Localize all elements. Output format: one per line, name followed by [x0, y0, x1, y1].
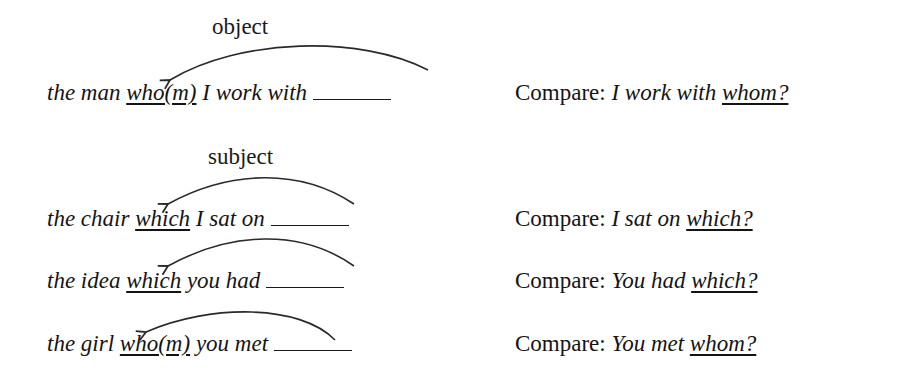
- gap-blank: [266, 286, 344, 288]
- compare-1: Compare: I work with whom?: [515, 80, 788, 106]
- sentence-after: you had: [181, 268, 260, 293]
- sentence-after: I work with: [197, 80, 308, 105]
- compare-wh-word: whom?: [722, 80, 788, 105]
- subject-label: subject: [208, 144, 273, 170]
- compare-prefix: Compare:: [515, 206, 611, 231]
- object-label: object: [212, 14, 268, 40]
- compare-wh-word: whom?: [690, 331, 756, 356]
- example-sentence-4: the girl who(m) you met: [47, 331, 352, 357]
- compare-wh-word: which?: [686, 206, 752, 231]
- compare-prefix: Compare:: [515, 268, 611, 293]
- gap-blank: [313, 98, 391, 100]
- object-arrow: [170, 46, 428, 80]
- sentence-before: the idea: [47, 268, 126, 293]
- sentence-before: the chair: [47, 206, 135, 231]
- relative-pronoun: who(m): [120, 331, 190, 356]
- compare-prefix: Compare:: [515, 80, 611, 105]
- gap-blank: [271, 224, 349, 226]
- gap-blank: [274, 349, 352, 351]
- sentence-after: I sat on: [190, 206, 265, 231]
- sentence-after: you met: [190, 331, 268, 356]
- compare-phrase: You had: [611, 268, 691, 293]
- compare-3: Compare: You had which?: [515, 268, 758, 294]
- compare-wh-word: which?: [691, 268, 757, 293]
- chair-arrow: [168, 178, 354, 204]
- compare-phrase: I sat on: [611, 206, 686, 231]
- compare-phrase: You met: [611, 331, 689, 356]
- sentence-before: the man: [47, 80, 126, 105]
- compare-4: Compare: You met whom?: [515, 331, 756, 357]
- sentence-before: the girl: [47, 331, 120, 356]
- compare-phrase: I work with: [611, 80, 722, 105]
- relative-pronoun: which: [126, 268, 181, 293]
- relative-pronoun: which: [135, 206, 190, 231]
- example-sentence-3: the idea which you had: [47, 268, 344, 294]
- relative-pronoun: who(m): [126, 80, 196, 105]
- example-sentence-2: the chair which I sat on: [47, 206, 349, 232]
- compare-2: Compare: I sat on which?: [515, 206, 753, 232]
- compare-prefix: Compare:: [515, 331, 611, 356]
- example-sentence-1: the man who(m) I work with: [47, 80, 391, 106]
- idea-arrow: [168, 239, 354, 266]
- movement-arrows: [0, 0, 907, 386]
